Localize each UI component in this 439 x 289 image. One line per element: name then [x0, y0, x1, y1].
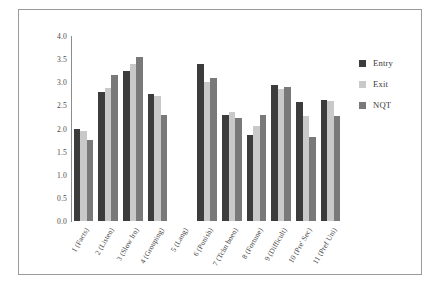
bar-nqt: [309, 137, 316, 221]
bar-group: [96, 36, 121, 221]
legend-label: NQT: [373, 100, 391, 110]
x-tick-label: 1 (Facts): [70, 226, 91, 254]
bar-nqt: [111, 75, 118, 221]
plot-area: [71, 36, 343, 221]
bar-group: [170, 36, 195, 221]
y-tick-label: 2.0: [57, 124, 67, 133]
bar-nqt: [260, 115, 267, 221]
x-tick-label: 6 (Punish): [191, 226, 215, 258]
bar-nqt: [87, 140, 94, 221]
y-tick-label: 0.5: [57, 193, 67, 202]
bar-groups: [71, 36, 343, 221]
bar-nqt: [334, 116, 341, 221]
x-axis-tick-labels: 1 (Facts)2 (Listen)3 (Slow lrn)4 (Groupi…: [71, 224, 343, 289]
bar-group: [318, 36, 343, 221]
y-tick-label: 1.5: [57, 147, 67, 156]
y-axis-tick-labels: 0.00.51.01.52.02.53.03.54.0: [41, 36, 67, 221]
bar-nqt: [161, 115, 168, 221]
legend-label: Entry: [373, 58, 393, 68]
y-tick-label: 4.0: [57, 32, 67, 41]
y-tick-label: 0.0: [57, 217, 67, 226]
bar-group: [71, 36, 96, 221]
legend-item-entry: Entry: [359, 58, 429, 68]
x-tick-label: 2 (Listen): [93, 226, 116, 256]
chart-figure: 0.00.51.01.52.02.53.03.54.0 1 (Facts)2 (…: [0, 0, 439, 289]
x-label-slot: 4 (Grouping): [145, 224, 170, 289]
y-tick-label: 2.5: [57, 101, 67, 110]
bar-group: [244, 36, 269, 221]
legend-label: Exit: [373, 79, 388, 89]
legend-item-exit: Exit: [359, 79, 429, 89]
bar-nqt: [210, 78, 217, 221]
y-tick-label: 3.0: [57, 78, 67, 87]
bar-group: [294, 36, 319, 221]
bar-nqt: [284, 87, 291, 221]
legend-swatch-icon: [359, 60, 366, 67]
x-tick-label: 5 (Lang): [169, 226, 190, 253]
legend-item-nqt: NQT: [359, 100, 429, 110]
bar-group: [195, 36, 220, 221]
bar-nqt: [235, 118, 242, 221]
y-tick-label: 3.5: [57, 55, 67, 64]
y-tick-label: 1.0: [57, 170, 67, 179]
x-label-slot: 5 (Lang): [170, 224, 195, 289]
legend-swatch-icon: [359, 102, 366, 109]
bar-group: [145, 36, 170, 221]
bar-group: [219, 36, 244, 221]
bar-group: [120, 36, 145, 221]
figure-frame: 0.00.51.01.52.02.53.03.54.0 1 (Facts)2 (…: [18, 9, 422, 275]
x-label-slot: 1 (Facts): [71, 224, 96, 289]
bar-nqt: [136, 57, 143, 221]
bar-group: [269, 36, 294, 221]
x-label-slot: 11 (Pref Uni): [318, 224, 343, 289]
chart-legend: EntryExitNQT: [359, 58, 429, 121]
legend-swatch-icon: [359, 81, 366, 88]
